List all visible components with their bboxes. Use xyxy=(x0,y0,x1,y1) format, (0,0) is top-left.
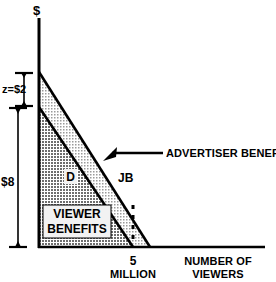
advertiser-benefits-label: ADVERTISER BENEFITS xyxy=(166,147,276,159)
joint-benefit-curve-label: JB xyxy=(118,171,134,185)
x-tick-value: 5 xyxy=(130,254,137,268)
z-measure-label: z=$2 xyxy=(2,83,26,95)
viewer-benefits-label-line2: BENEFITS xyxy=(47,222,106,236)
economics-diagram: z=$2 $8 $ 5 MILLION NUMBER OF VIEWERS D xyxy=(0,0,276,282)
x-tick-unit: MILLION xyxy=(110,268,156,280)
y-axis-label: $ xyxy=(33,3,41,18)
advertiser-benefits-leader-line xyxy=(103,147,163,161)
demand-curve-label: D xyxy=(66,170,75,184)
x-axis-title-line2: VIEWERS xyxy=(192,268,243,280)
viewer-benefits-label-line1: VIEWER xyxy=(53,207,101,221)
x-axis-title-line1: NUMBER OF xyxy=(184,255,252,267)
price-measure-label: $8 xyxy=(1,175,15,189)
viewer-benefits-label-box: VIEWER BENEFITS xyxy=(43,205,111,238)
